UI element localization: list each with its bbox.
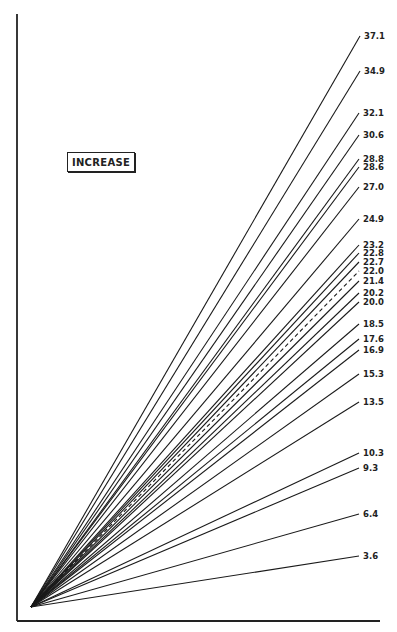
series-value-label: 16.9 [363,345,384,355]
series-value-label: 27.0 [363,182,384,192]
legend-increase-box: INCREASE [67,152,135,172]
series-line [31,339,359,607]
series-line [31,262,359,607]
series-line [31,402,359,607]
series-value-label: 34.9 [364,66,385,76]
series-value-label: 30.6 [363,130,384,140]
series-line [31,187,359,607]
series-line [31,113,359,607]
series-line [31,468,359,607]
series-value-label: 3.6 [363,551,378,561]
series-labels: 37.134.932.130.628.828.627.024.923.222.8… [363,31,385,561]
series-line [31,281,359,607]
series-value-label: 15.3 [363,369,384,379]
series-line [31,219,359,607]
series-value-label: 28.6 [363,162,384,172]
series-line [31,135,359,607]
series-line [31,324,359,607]
series-line [31,556,359,607]
series-value-label: 32.1 [363,108,384,118]
series-line [31,374,359,607]
series-value-label: 37.1 [364,31,385,41]
series-value-label: 6.4 [363,509,378,519]
series-lines [31,36,360,607]
series-line [31,253,359,607]
series-line [31,350,359,607]
series-line [31,36,360,607]
series-value-label: 24.9 [363,214,384,224]
legend-label: INCREASE [72,157,130,168]
series-value-label: 17.6 [363,334,384,344]
series-value-label: 10.3 [363,448,384,458]
series-value-label: 21.4 [363,276,384,286]
fan-line-chart: 37.134.932.130.628.828.627.024.923.222.8… [0,0,397,632]
series-value-label: 18.5 [363,319,384,329]
series-value-label: 13.5 [363,397,384,407]
series-line [31,453,359,607]
series-line [31,159,359,607]
series-value-label: 9.3 [363,463,378,473]
series-value-label: 22.0 [363,266,384,276]
series-line [31,302,359,607]
series-value-label: 20.0 [363,297,384,307]
series-line [31,245,359,607]
series-line [31,167,359,607]
